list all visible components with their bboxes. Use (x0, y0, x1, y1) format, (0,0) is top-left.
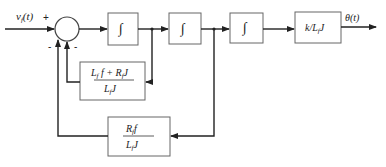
output-label: θ(t) (345, 12, 360, 24)
integrator-1-block (108, 13, 138, 45)
inner-feedback-path (146, 29, 152, 82)
minus-sign-outer: - (48, 41, 51, 52)
block-diagram: vf(t) + - - ∫ ∫ ∫ k/LfJ θ(t) Lf f + RfJ … (0, 0, 386, 167)
summing-junction (55, 17, 79, 41)
integrator-2-block (169, 13, 201, 44)
plus-sign: + (43, 12, 49, 23)
minus-sign-inner: - (74, 41, 77, 52)
outer-feedback-path (171, 29, 214, 136)
input-label: vf(t) (16, 10, 34, 24)
outer-feedback-block (108, 117, 170, 156)
